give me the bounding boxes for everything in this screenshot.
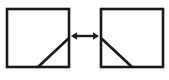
figure-container <box>0 0 169 80</box>
arrow-head-left-icon <box>71 32 77 39</box>
arrow-group <box>71 32 99 39</box>
left-square <box>7 9 69 67</box>
right-square <box>101 9 163 67</box>
right-shape-group <box>101 9 163 67</box>
mirror-symmetry-diagram <box>0 0 169 80</box>
left-shape-group <box>7 9 69 67</box>
arrow-head-right-icon <box>93 32 99 39</box>
